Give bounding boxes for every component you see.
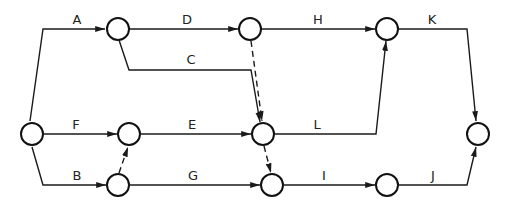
node-1-start [21,123,43,145]
node-9 [261,174,283,196]
node-4 [376,18,398,40]
label-l: L [313,117,321,132]
label-e: E [188,117,196,132]
dummy-n6-n9-arrow [264,146,271,173]
activity-l-arrow [275,41,386,134]
node-10 [376,174,398,196]
activity-a-arrow [30,29,105,121]
label-a: A [73,12,82,27]
node-6 [252,123,274,145]
activity-b-arrow [32,147,106,185]
node-2 [107,18,129,40]
label-f: F [72,117,79,132]
dummy-n8-n5-arrow [119,147,128,173]
label-g: G [188,168,198,183]
node-5 [118,123,140,145]
node-3 [239,18,261,40]
label-b: B [73,168,82,183]
label-k: K [428,12,437,27]
label-h: H [313,12,323,27]
activity-j-arrow [399,147,476,185]
label-i: I [322,168,326,183]
label-j: J [430,168,435,183]
network-diagram: A D H K C F E L B G I J [0,0,508,206]
node-8 [107,174,129,196]
label-d: D [182,12,192,27]
activity-k-arrow [398,29,476,121]
label-c: C [186,52,195,67]
node-7-end [467,123,489,145]
